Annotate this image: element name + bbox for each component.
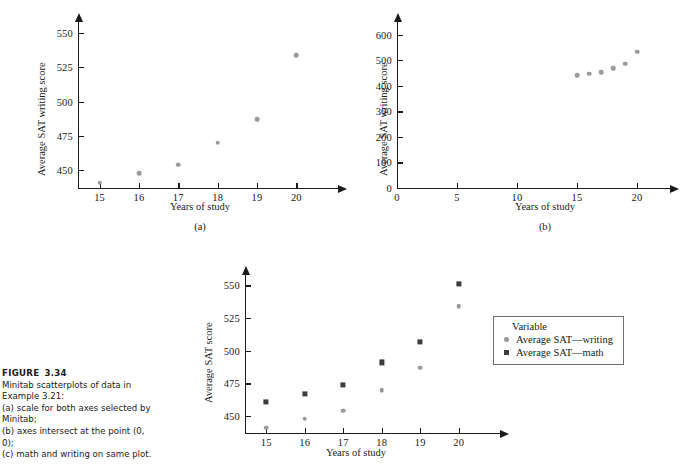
y-tick bbox=[398, 35, 403, 36]
x-tick-label: 19 bbox=[415, 437, 426, 448]
y-tick-label: 450 bbox=[38, 165, 73, 176]
legend-label-math: Average SAT—math bbox=[516, 347, 604, 358]
x-tick bbox=[139, 183, 140, 188]
y-axis-line bbox=[78, 22, 79, 188]
data-point bbox=[611, 66, 616, 71]
x-tick bbox=[397, 183, 398, 188]
x-tick-label: 15 bbox=[261, 437, 272, 448]
legend-item-math: Average SAT—math bbox=[501, 346, 616, 359]
subplot-label-b: (b) bbox=[539, 221, 551, 232]
y-tick bbox=[398, 188, 403, 189]
y-tick bbox=[79, 136, 84, 137]
x-tick-label: 20 bbox=[291, 192, 302, 203]
y-tick-label: 550 bbox=[205, 280, 240, 291]
y-axis-title-c: Average SAT score bbox=[203, 322, 214, 403]
data-point bbox=[635, 49, 640, 54]
x-tick bbox=[257, 183, 258, 188]
y-tick-label: 450 bbox=[205, 411, 240, 422]
y-tick-label: 475 bbox=[38, 130, 73, 141]
data-point bbox=[264, 425, 269, 430]
figure-caption-heading: FIGURE3.34 bbox=[2, 368, 154, 380]
data-point bbox=[575, 73, 580, 78]
data-point bbox=[97, 180, 102, 185]
x-tick bbox=[218, 183, 219, 188]
y-tick bbox=[398, 162, 403, 163]
x-tick-label: 10 bbox=[512, 192, 523, 203]
y-tick-label: 600 bbox=[357, 29, 392, 40]
x-tick-label: 20 bbox=[453, 437, 464, 448]
y-tick bbox=[246, 285, 251, 286]
x-tick-label: 16 bbox=[299, 437, 310, 448]
data-point bbox=[137, 171, 142, 176]
y-tick bbox=[79, 67, 84, 68]
y-axis-arrow-icon bbox=[394, 13, 402, 22]
data-point bbox=[341, 409, 346, 414]
y-tick-label: 525 bbox=[205, 313, 240, 324]
y-tick bbox=[246, 383, 251, 384]
x-axis-line bbox=[245, 433, 500, 434]
data-point bbox=[418, 339, 423, 344]
y-tick bbox=[398, 86, 403, 87]
x-tick bbox=[296, 183, 297, 188]
x-tick-label: 15 bbox=[94, 192, 105, 203]
data-point bbox=[176, 162, 181, 167]
subplot-label-a: (a) bbox=[194, 221, 206, 232]
x-tick bbox=[178, 183, 179, 188]
circle-marker-icon bbox=[501, 337, 512, 342]
y-axis-title-a: Average SAT writing score bbox=[36, 62, 47, 176]
data-point bbox=[457, 304, 462, 309]
y-tick-label: 500 bbox=[357, 55, 392, 66]
figure-number: 3.34 bbox=[44, 368, 66, 378]
x-tick bbox=[457, 183, 458, 188]
scatterplot-panel-b: Average SAT writing score Years of study… bbox=[345, 0, 685, 245]
x-tick bbox=[343, 428, 344, 433]
x-tick bbox=[305, 428, 306, 433]
y-tick bbox=[246, 416, 251, 417]
caption-line-2: Example 3.21: bbox=[2, 391, 154, 403]
figure-caption: FIGURE3.34 Minitab scatterplots of data … bbox=[2, 368, 154, 461]
x-tick-label: 18 bbox=[212, 192, 223, 203]
y-tick-label: 550 bbox=[38, 27, 73, 38]
x-tick bbox=[382, 428, 383, 433]
caption-line-6: (c) math and writing on same plot. bbox=[2, 449, 154, 461]
y-tick bbox=[79, 102, 84, 103]
y-tick bbox=[398, 60, 403, 61]
data-point bbox=[302, 391, 307, 396]
caption-line-4: Minitab; bbox=[2, 414, 154, 426]
legend-title: Variable bbox=[512, 321, 616, 332]
data-point bbox=[418, 365, 423, 370]
caption-line-3: (a) scale for both axes selected by bbox=[2, 403, 154, 415]
legend-label-writing: Average SAT—writing bbox=[516, 334, 613, 345]
y-tick-label: 500 bbox=[205, 345, 240, 356]
y-tick-label: 200 bbox=[357, 131, 392, 142]
x-tick-label: 20 bbox=[632, 192, 643, 203]
scatterplot-panel-c: Average SAT score Years of study Variabl… bbox=[160, 255, 685, 474]
y-tick-label: 0 bbox=[357, 183, 392, 194]
x-axis-arrow-icon bbox=[500, 430, 509, 438]
data-point bbox=[341, 382, 346, 387]
x-axis-line bbox=[397, 188, 670, 189]
data-point bbox=[294, 53, 299, 58]
x-tick-label: 18 bbox=[376, 437, 387, 448]
scatterplot-panel-a: Average SAT writing score Years of study… bbox=[0, 0, 345, 245]
y-tick-label: 525 bbox=[38, 62, 73, 73]
y-axis-arrow-icon bbox=[75, 13, 83, 22]
square-marker-icon bbox=[501, 350, 512, 355]
data-point bbox=[302, 416, 307, 421]
y-tick bbox=[246, 318, 251, 319]
x-tick-label: 19 bbox=[252, 192, 263, 203]
y-tick-label: 475 bbox=[205, 378, 240, 389]
x-tick-label: 5 bbox=[454, 192, 459, 203]
data-point bbox=[379, 388, 384, 393]
y-tick bbox=[79, 33, 84, 34]
x-tick-label: 17 bbox=[173, 192, 184, 203]
data-point bbox=[215, 140, 220, 145]
y-tick bbox=[246, 351, 251, 352]
data-point bbox=[599, 70, 604, 75]
y-tick bbox=[398, 111, 403, 112]
x-tick bbox=[459, 428, 460, 433]
x-tick bbox=[637, 183, 638, 188]
data-point bbox=[264, 399, 269, 404]
x-axis-line bbox=[78, 188, 338, 189]
caption-line-1: Minitab scatterplots of data in bbox=[2, 380, 154, 392]
